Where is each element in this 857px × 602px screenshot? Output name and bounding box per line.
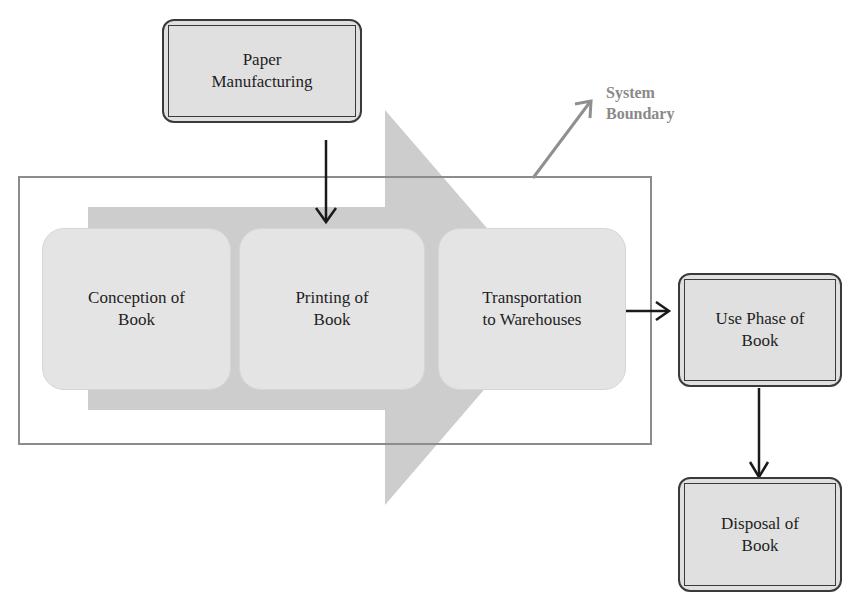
node-disposal-of-book: Disposal ofBook [678, 477, 842, 592]
arrow-use-to-disposal [750, 388, 768, 477]
arrow-transport-to-use [625, 302, 669, 320]
system-boundary-pointer-arrow [533, 101, 591, 178]
node-conception-of-book: Conception ofBook [42, 228, 231, 390]
node-use-phase-of-book: Use Phase ofBook [678, 273, 842, 387]
node-transportation-to-warehouses: Transportationto Warehouses [438, 228, 626, 390]
node-printing-of-book: Printing ofBook [239, 228, 425, 390]
node-paper-manufacturing: PaperManufacturing [162, 19, 362, 123]
system-boundary-label: SystemBoundary [606, 82, 674, 124]
